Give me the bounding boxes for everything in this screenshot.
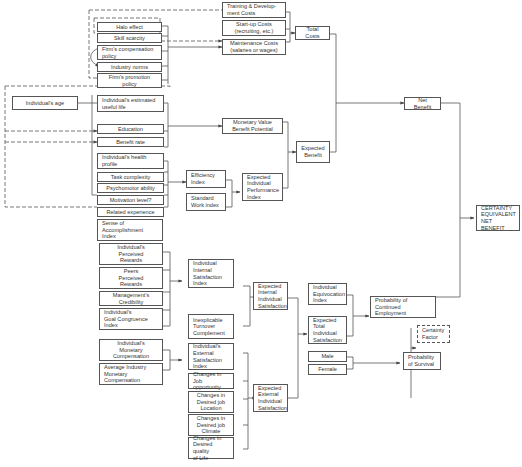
node-halo-effect: Halo effect [97, 22, 162, 32]
node-probability-continued-employment: Probability of Continued Employment [370, 296, 436, 318]
node-certainty-factor: Certainty Factor [417, 325, 450, 343]
node-net-benefit: Net Benefit [404, 97, 441, 110]
node-label: Psychomotor ability [106, 185, 155, 192]
node-changes-job-climate: Changes in Desired job Climate [188, 414, 234, 436]
node-label: Changes in Desired job Climate [197, 415, 225, 435]
node-label: Firm's promotion policy [109, 74, 150, 87]
node-label: Maintenance Costs (salaries or wages) [230, 40, 278, 53]
node-probability-survival: Probability of Survival [403, 352, 441, 370]
node-changes-quality-of-life: Changes in Desired quality of Life [188, 437, 234, 459]
node-label: Task complexity [111, 174, 150, 181]
node-skill-scarcity: Skill scarcity [97, 33, 162, 43]
node-label: Individual Equivocation Index [313, 284, 345, 304]
node-label: Probability of Survival [408, 354, 434, 367]
node-standard-work-index: Standard Work index [186, 193, 226, 211]
node-related-experience: Related experience [97, 207, 164, 217]
node-label: CERTAINTY EQUIVALENT NET BENEFIT [481, 205, 516, 231]
node-label: Individual's Monetary Compensation [113, 340, 149, 360]
node-label: Industry norms [111, 64, 148, 71]
node-external-satisfaction-index: Individual's External Satisfaction Index [188, 343, 234, 370]
node-label: Related experience [106, 209, 154, 216]
node-label: Management's Credibility [113, 292, 150, 305]
node-label: Individual's estimated useful life [102, 97, 155, 110]
node-label: Peers Perceived Rewards [119, 268, 144, 288]
node-label: Skill scarcity [114, 35, 145, 42]
node-label: Halo effect [116, 24, 143, 31]
node-psychomotor-ability: Psychomotor ability [97, 183, 164, 193]
node-inexplicable-turnover: Inexplicable Turnover Complement [188, 314, 234, 339]
node-label: Changes in Desired quality of Life [193, 435, 229, 461]
node-label: Motivation level? [110, 197, 152, 204]
node-changes-job-location: Changes in Desired job Location [188, 391, 234, 413]
node-goal-congruence: Individual's Goal Congruence Index [99, 308, 163, 330]
node-expected-performance-index: Expected Individual Performance Index [242, 173, 283, 201]
node-label: Start-up Costs (recruiting, etc.) [235, 21, 274, 34]
node-firm-promotion-policy: Firm's promotion policy [97, 73, 162, 88]
node-monetary-value: Monetary Value Benefit Potential [222, 118, 283, 134]
node-label: Training & Develop- ment Costs [227, 3, 276, 16]
node-label: Sense of Accomplishment Index [102, 220, 143, 240]
node-health-profile: Individual's health profile [97, 153, 164, 169]
node-label: Standard Work index [191, 195, 219, 208]
node-label: Expected Benefit [301, 145, 324, 158]
node-label: Total Costs [300, 26, 325, 39]
node-individual-age: Individual's age [12, 96, 78, 110]
node-label: Changes in Job opportunity [193, 371, 229, 391]
node-certainty-equivalent-net-benefit: CERTAINTY EQUIVALENT NET BENEFIT [476, 205, 520, 231]
node-male: Male [308, 351, 347, 362]
node-label: Individual's Goal Congruence Index [104, 309, 148, 329]
node-peers-perceived-rewards: Peers Perceived Rewards [99, 267, 163, 289]
node-label: Certainty Factor [422, 327, 444, 340]
node-expected-benefit: Expected Benefit [296, 141, 330, 163]
node-management-credibility: Management's Credibility [99, 291, 163, 306]
node-education: Education [97, 124, 164, 134]
node-training-costs: Training & Develop- ment Costs [222, 2, 286, 18]
node-expected-internal-satisfaction: Expected Internal Individual Satisfactio… [253, 282, 288, 310]
node-label: Education [118, 126, 143, 133]
node-motivation-level: Motivation level? [97, 195, 164, 205]
node-monetary-compensation: Individual's Monetary Compensation [99, 339, 163, 361]
node-label: Expected Internal Individual Satisfactio… [258, 283, 287, 309]
node-total-costs: Total Costs [295, 26, 330, 40]
node-expected-total-satisfaction: Expected Total Individual Satisfaction [308, 316, 347, 344]
node-internal-satisfaction-index: Individual Internal Satisfaction Index [188, 259, 234, 288]
node-label: Male [321, 353, 333, 360]
node-label: Expected Total Individual Satisfaction [313, 317, 342, 343]
node-label: Female [318, 366, 337, 373]
node-label: Individual's age [26, 100, 64, 107]
node-efficiency-index: Efficiency Index [186, 170, 226, 188]
node-changes-job-opportunity: Changes in Job opportunity [188, 373, 234, 389]
node-label: Individual's health profile [102, 154, 146, 167]
node-label: Benefit rate [116, 139, 145, 146]
node-perceived-rewards: Individual's Perceived Rewards [99, 243, 163, 265]
node-label: Average Industry Monetary Compensation [104, 364, 146, 384]
node-expected-external-satisfaction: Expected External Individual Satisfactio… [253, 384, 288, 412]
node-firm-compensation-policy: Firm's compensation policy [97, 45, 162, 60]
node-industry-norms: Industry norms [97, 62, 162, 72]
node-label: Individual Internal Satisfaction Index [193, 260, 222, 286]
node-female: Female [308, 364, 347, 375]
node-maintenance-costs: Maintenance Costs (salaries or wages) [222, 39, 286, 55]
node-label: Inexplicable Turnover Complement [193, 317, 225, 337]
node-benefit-rate: Benefit rate [97, 137, 164, 147]
node-label: Probability of Continued Employment [375, 297, 431, 317]
node-label: Monetary Value Benefit Potential [232, 119, 273, 132]
node-label: Changes in Desired job Location [197, 392, 225, 412]
node-label: Individual's Perceived Rewards [117, 244, 145, 264]
node-estimated-useful-life: Individual's estimated useful life [97, 95, 164, 112]
node-equivocation-index: Individual Equivocation Index [308, 283, 347, 305]
node-label: Net Benefit [409, 97, 436, 110]
node-label: Expected External Individual Satisfactio… [258, 385, 287, 411]
node-label: Expected Individual Performance Index [247, 174, 279, 200]
node-startup-costs: Start-up Costs (recruiting, etc.) [222, 20, 286, 36]
node-label: Firm's compensation policy [102, 46, 153, 59]
node-sense-of-accomplishment: Sense of Accomplishment Index [97, 219, 163, 241]
node-label: Efficiency Index [191, 172, 215, 185]
node-avg-industry-compensation: Average Industry Monetary Compensation [99, 363, 163, 385]
node-task-complexity: Task complexity [97, 172, 164, 182]
node-label: Individual's External Satisfaction Index [193, 343, 222, 369]
